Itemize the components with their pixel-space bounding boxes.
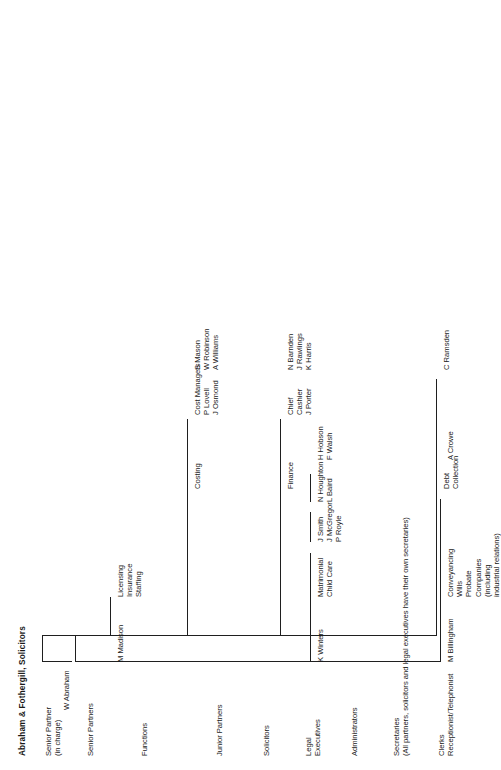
row-label-senior-partners: Senior Partners	[86, 703, 95, 756]
node-senior-partner-m-billingham[interactable]: M Billingham	[446, 619, 455, 662]
row-label-secretaries: Secretaries (All partners, solicitors an…	[392, 456, 410, 756]
row-label-solicitors: Solicitors	[262, 725, 271, 756]
connector-root	[75, 636, 76, 662]
node-secretaries-costing[interactable]: S Mason W Robinson A Williams	[193, 329, 221, 370]
node-solicitors-winters[interactable]: N Houghton L Baird	[316, 461, 334, 502]
page-title: Abraham & Fothergill, Solicitors	[18, 626, 27, 756]
connector-finance-admin	[280, 419, 281, 489]
connector-billingham-spine	[75, 661, 440, 662]
connector-debt-clerks	[436, 379, 437, 489]
connector-billingham-functions	[440, 499, 441, 597]
node-function-conveyancing[interactable]: Conveyancing Wills Probate Companies (in…	[446, 533, 501, 597]
node-clerk-c-ramsden[interactable]: C Ramsden	[442, 330, 451, 370]
row-label-legal-executives: Legal Executives	[304, 719, 322, 756]
node-administrators-cost-managers[interactable]: Cost Managers P Lovell J Osmond	[193, 364, 221, 416]
connector-winters-functions	[310, 553, 311, 597]
connector-branch-debt	[436, 489, 437, 636]
node-secretaries-finance[interactable]: N Barnden J Rawlings K Harris	[286, 333, 314, 370]
connector-branch-finance	[280, 489, 281, 636]
row-label-junior-partners: Junior Partners	[215, 705, 224, 757]
row-label-administrators: Administrators	[350, 707, 359, 756]
connector-subspine-partners	[42, 661, 72, 662]
node-administrators-chief-cashier[interactable]: Chief Cashier J Porter	[286, 388, 314, 415]
connector-costing-admin	[187, 419, 188, 489]
connector-branch-madison	[110, 597, 111, 636]
connector-spine	[42, 635, 436, 636]
node-junior-partners-winters[interactable]: J Smith J McGregor P Royle	[316, 502, 344, 542]
connector-winters-solicitors	[310, 474, 311, 502]
node-legal-executive-a-crowe[interactable]: A Crowe	[446, 431, 455, 460]
connector-winters	[310, 597, 311, 662]
node-legal-executives-winters[interactable]: H Hobson F Walsh	[316, 426, 334, 460]
row-label-functions: Functions	[140, 723, 149, 756]
node-root-w-abraham[interactable]: W Abraham	[62, 670, 71, 710]
node-function-matrimonial[interactable]: Matrimonial Child Care	[316, 558, 334, 597]
row-label-senior-partner: Senior Partner (in charge)	[44, 707, 62, 756]
node-function-costing[interactable]: Costing	[193, 463, 202, 489]
node-senior-partner-m-madison[interactable]: M Madison	[116, 625, 125, 662]
connector-branch-winters	[42, 636, 43, 662]
node-senior-partner-k-winters[interactable]: K Winters	[316, 629, 325, 662]
connector-branch-costing	[187, 489, 188, 636]
node-function-finance[interactable]: Finance	[286, 462, 295, 489]
node-function-licensing[interactable]: Licensing Insurance Staffing	[116, 564, 144, 597]
row-label-clerks: Clerks Receptionist/Telephonist	[437, 674, 455, 756]
connector-billingham	[440, 597, 441, 662]
node-function-debt-collection[interactable]: Debt Collection	[442, 456, 460, 489]
connector-winters-juniors	[310, 512, 311, 542]
